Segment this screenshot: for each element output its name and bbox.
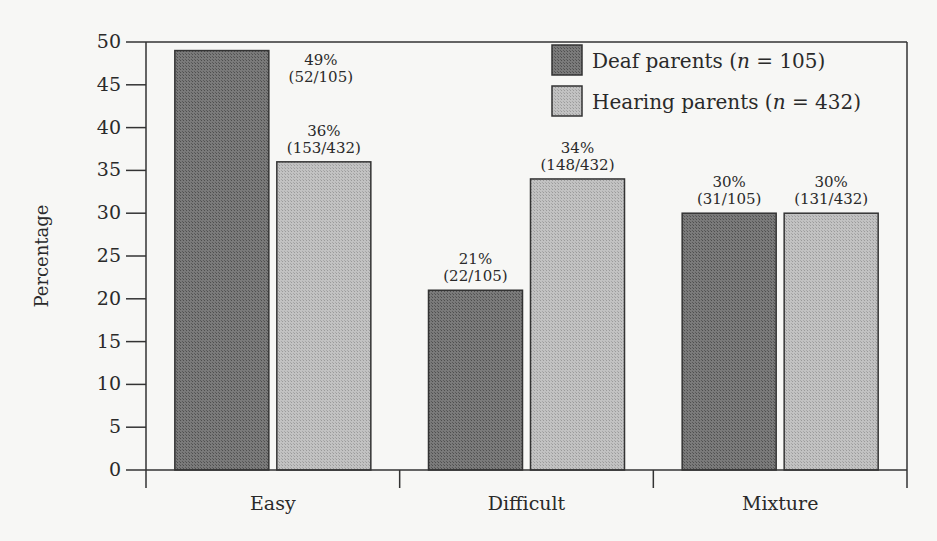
y-axis-label: Percentage <box>31 204 52 307</box>
bar-fraction-label: (131/432) <box>794 190 868 208</box>
y-tick-label: 10 <box>97 372 121 394</box>
bar-fraction-label: (148/432) <box>540 156 614 174</box>
y-tick-label: 35 <box>97 158 121 180</box>
bar-value-label: 30% <box>712 173 745 191</box>
x-axis: EasyDifficultMixture <box>146 470 907 514</box>
bar-hearing-parents-easy <box>277 162 371 470</box>
legend-label-hearing: Hearing parents (n = 432) <box>592 90 861 114</box>
y-tick-label: 0 <box>109 458 121 480</box>
y-tick-label: 30 <box>97 201 121 223</box>
bar-value-label: 30% <box>814 173 847 191</box>
bar-fraction-label: (22/105) <box>443 267 507 285</box>
bar-hearing-parents-mixture <box>784 213 878 470</box>
bar-value-label: 36% <box>307 122 340 140</box>
legend-label-deaf: Deaf parents (n = 105) <box>592 49 825 73</box>
bar-chart: 05101520253035404550 Percentage 49%(52/1… <box>0 0 937 541</box>
y-tick-label: 25 <box>97 244 121 266</box>
y-tick-label: 40 <box>97 116 121 138</box>
legend: Deaf parents (n = 105) Hearing parents (… <box>552 45 861 116</box>
bar-value-label: 34% <box>561 139 594 157</box>
x-category-label-difficult: Difficult <box>488 492 566 514</box>
bar-fraction-label: (52/105) <box>289 68 353 86</box>
y-tick-label: 45 <box>97 73 121 95</box>
legend-swatch-deaf <box>552 45 582 75</box>
x-category-label-easy: Easy <box>250 492 296 514</box>
bar-deaf-parents-mixture <box>682 213 776 470</box>
bar-fraction-label: (31/105) <box>697 190 761 208</box>
x-category-label-mixture: Mixture <box>742 492 818 514</box>
legend-swatch-hearing <box>552 86 582 116</box>
bar-deaf-parents-difficult <box>429 290 523 470</box>
y-tick-label: 50 <box>97 30 121 52</box>
bar-value-label: 21% <box>459 250 492 268</box>
bar-fraction-label: (153/432) <box>287 139 361 157</box>
y-tick-label: 15 <box>97 330 121 352</box>
y-tick-label: 5 <box>109 415 121 437</box>
bar-value-label: 49% <box>304 51 337 69</box>
bar-hearing-parents-difficult <box>531 179 625 470</box>
y-axis: 05101520253035404550 <box>97 30 146 488</box>
bar-deaf-parents-easy <box>175 51 269 470</box>
y-tick-label: 20 <box>97 287 121 309</box>
